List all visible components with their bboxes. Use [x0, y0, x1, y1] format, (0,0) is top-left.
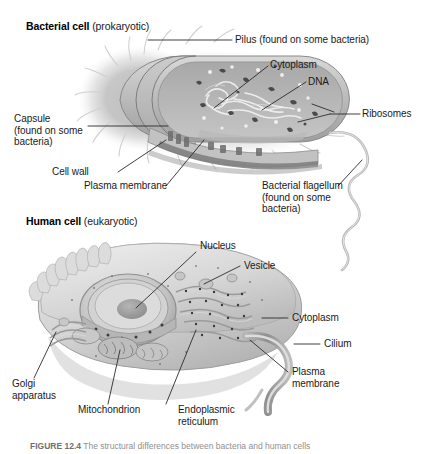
label-vesicle: Vesicle [244, 260, 275, 272]
label-bacterial-flagellum: Bacterial flagellum (found on some bacte… [262, 180, 343, 215]
label-cytoplasm-bacterial: Cytoplasm [270, 59, 317, 71]
label-golgi-apparatus: Golgi apparatus [12, 378, 56, 401]
bacterial-cell-art [75, 26, 349, 175]
figure-container: Bacterial cell (prokaryotic) Human cell … [0, 0, 426, 454]
label-pilus: Pilus (found on some bacteria) [235, 34, 369, 46]
label-nucleus: Nucleus [200, 240, 236, 252]
label-dna: DNA [308, 76, 329, 88]
label-capsule: Capsule (found on some bacteria) [14, 113, 83, 148]
section-heading-human-regular: (eukaryotic) [84, 215, 138, 227]
section-heading-human-bold: Human cell [26, 215, 81, 227]
label-ribosomes: Ribosomes [362, 108, 412, 120]
label-endoplasmic-reticulum: Endoplasmic reticulum [178, 404, 235, 427]
section-heading-bacterial: Bacterial cell (prokaryotic) [26, 20, 149, 32]
label-mitochondrion: Mitochondrion [78, 404, 140, 416]
figure-caption-number: FIGURE 12.4 [30, 441, 81, 451]
leader-golgi [34, 332, 56, 378]
section-heading-bacterial-bold: Bacterial cell [26, 20, 89, 32]
section-heading-human: Human cell (eukaryotic) [26, 215, 138, 227]
label-cytoplasm-human: Cytoplasm [292, 312, 339, 324]
cell-illustrations [0, 0, 426, 454]
section-heading-bacterial-regular: (prokaryotic) [92, 20, 149, 32]
label-plasma-membrane-human: Plasma membrane [292, 366, 339, 389]
label-cell-wall: Cell wall [52, 166, 89, 178]
label-plasma-membrane-bacterial: Plasma membrane [84, 180, 167, 192]
label-cilium: Cilium [324, 338, 351, 350]
figure-caption: FIGURE 12.4 The structural differences b… [30, 441, 426, 452]
figure-caption-text: The structural differences between bacte… [83, 441, 310, 451]
